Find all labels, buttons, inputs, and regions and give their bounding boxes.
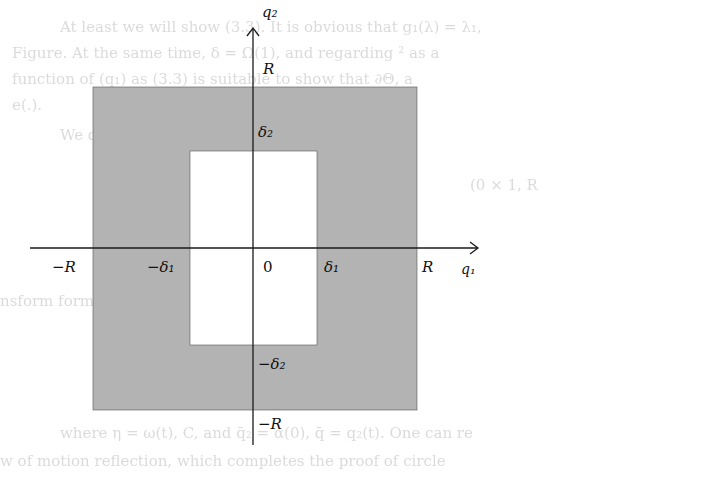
label-neg-R-left: −R	[52, 258, 76, 276]
label-R-top: R	[263, 60, 274, 78]
label-q1-axis: q₁	[461, 261, 476, 277]
region-diagram	[0, 0, 715, 496]
label-neg-R-bottom: −R	[258, 415, 282, 433]
label-R-right: R	[422, 258, 433, 276]
label-neg-delta2: −δ₂	[258, 355, 286, 373]
label-delta1: δ₁	[324, 258, 339, 276]
label-neg-delta1: −δ₁	[147, 258, 175, 276]
figure-page: At least we will show (3.3). It is obvio…	[0, 0, 715, 496]
label-delta2: δ₂	[258, 123, 273, 141]
label-origin: 0	[263, 258, 273, 276]
label-q2-axis: q₂	[262, 3, 278, 21]
